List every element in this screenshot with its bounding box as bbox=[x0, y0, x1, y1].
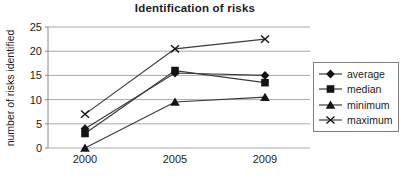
minimum-triangle-icon bbox=[318, 100, 343, 110]
legend-label: maximum bbox=[347, 115, 393, 126]
maximum-2000-marker bbox=[81, 111, 89, 118]
median-2009-marker bbox=[261, 79, 269, 87]
x-tick-label: 2009 bbox=[253, 153, 277, 165]
legend-item-average: average bbox=[318, 67, 396, 81]
median-square-icon bbox=[318, 84, 343, 94]
legend-label: minimum bbox=[347, 100, 390, 111]
legend-item-median: median bbox=[318, 82, 396, 96]
y-tick-label: 10 bbox=[30, 94, 42, 106]
average-2009-marker bbox=[261, 71, 270, 80]
chart-container: Identification of risks number of risks … bbox=[0, 0, 408, 182]
legend-label: median bbox=[347, 84, 381, 95]
legend-median-marker bbox=[327, 85, 335, 93]
y-tick-label: 0 bbox=[36, 142, 42, 154]
legend-item-minimum: minimum bbox=[318, 98, 396, 112]
median-2000-marker bbox=[81, 130, 89, 138]
y-tick-label: 25 bbox=[30, 21, 42, 33]
legend-box: average median minimum maximum bbox=[313, 62, 399, 132]
legend-label: average bbox=[347, 69, 385, 80]
y-tick-label: 20 bbox=[30, 45, 42, 57]
x-tick-label: 2005 bbox=[163, 153, 187, 165]
average-diamond-icon bbox=[318, 69, 343, 79]
x-tick-label: 2000 bbox=[73, 153, 97, 165]
y-tick-label: 15 bbox=[30, 69, 42, 81]
legend-item-maximum: maximum bbox=[318, 113, 396, 127]
legend-average-marker bbox=[326, 69, 335, 78]
median-2005-marker bbox=[171, 67, 179, 75]
maximum-x-icon bbox=[318, 115, 343, 125]
y-tick-label: 5 bbox=[36, 118, 42, 130]
